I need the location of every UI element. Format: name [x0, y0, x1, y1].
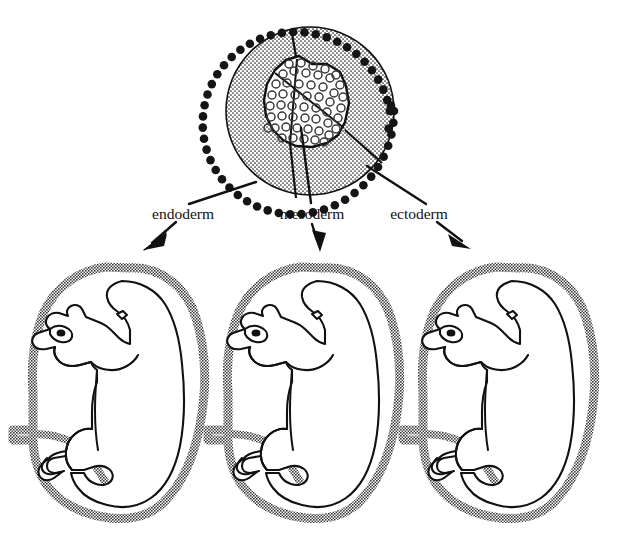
embryo-endoderm [13, 267, 205, 518]
label-ectoderm: ectoderm [390, 205, 448, 222]
embryo-mesoderm [208, 267, 400, 518]
label-endoderm: endoderm [152, 205, 214, 222]
blastocyst [199, 27, 399, 219]
label-mesoderm: mesoderm [280, 205, 345, 222]
embryo-ectoderm [403, 267, 595, 518]
germ-layer-diagram: endoderm mesoderm ectoderm [0, 0, 620, 533]
